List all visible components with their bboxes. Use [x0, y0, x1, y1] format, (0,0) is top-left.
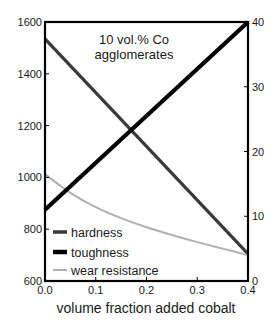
y-right-tick-label: 20 — [252, 146, 264, 158]
legend-label-hardness: hardness — [71, 226, 122, 240]
y-left-tick-label: 1000 — [18, 171, 42, 183]
legend-label-wear-resistance: wear resistance — [70, 264, 159, 278]
annotation-line-2: agglomerates — [95, 47, 174, 62]
annotation-line-1: 10 vol.% Co — [99, 32, 169, 47]
x-tick-label: 0.1 — [88, 284, 103, 296]
series-hardness-line — [45, 39, 248, 254]
y-right-tick-label: 30 — [252, 81, 264, 93]
x-axis-label: volume fraction added cobalt — [57, 300, 236, 316]
y-right-tick-label: 40 — [252, 16, 264, 28]
chart: 0.00.10.20.30.46008001000120014001600010… — [0, 0, 277, 332]
y-right-tick-label: 0 — [252, 275, 258, 287]
y-right-tick-label: 10 — [252, 210, 264, 222]
y-left-tick-label: 1200 — [18, 120, 42, 132]
y-left-tick-label: 800 — [24, 223, 42, 235]
x-tick-label: 0.3 — [190, 284, 205, 296]
y-left-tick-label: 1400 — [18, 68, 42, 80]
series-wear-resistance-line — [45, 174, 248, 255]
y-left-tick-label: 1600 — [18, 16, 42, 28]
y-left-tick-label: 600 — [24, 275, 42, 287]
legend-label-toughness: toughness — [71, 246, 129, 260]
x-tick-label: 0.2 — [139, 284, 154, 296]
legend: hardness toughness wear resistance — [53, 226, 159, 278]
